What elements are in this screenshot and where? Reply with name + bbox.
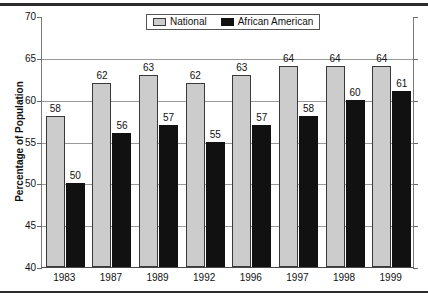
y-tick-mark-right-70 [413, 17, 418, 18]
plot-area: 58506256635762556357645864606461 [41, 17, 414, 268]
y-tick-mark-right-50 [413, 184, 418, 185]
y-tick-label-70: 70 [12, 12, 36, 22]
gridline-65 [42, 59, 413, 60]
legend-item-national: National [153, 17, 207, 27]
bar-value-label-african-american-1997: 58 [295, 104, 322, 114]
black-swatch-icon [221, 18, 234, 26]
y-tick-mark-right-45 [413, 226, 418, 227]
y-tick-label-50: 50 [12, 179, 36, 189]
y-tick-mark-right-40 [413, 268, 418, 269]
bar-national-1992 [186, 83, 205, 267]
bar-value-label-national-1998: 64 [322, 54, 349, 64]
bar-value-label-african-american-1987: 56 [108, 121, 135, 131]
bar-african-american-1999 [392, 91, 411, 267]
bar-african-american-1989 [159, 125, 178, 267]
x-tick-label-1999: 1999 [367, 272, 414, 283]
bar-national-1996 [232, 75, 251, 267]
x-tick-label-1996: 1996 [228, 272, 275, 283]
y-tick-label-60: 60 [12, 96, 36, 106]
y-tick-label-40: 40 [12, 263, 36, 273]
bar-value-label-african-american-1999: 61 [388, 79, 415, 89]
bar-value-label-national-1999: 64 [368, 54, 395, 64]
bar-value-label-national-1989: 63 [135, 63, 162, 73]
y-tick-mark-left-40 [37, 268, 42, 269]
bar-african-american-1997 [299, 116, 318, 267]
x-tick-label-1998: 1998 [321, 272, 368, 283]
legend-item-african-american: African American [221, 17, 314, 27]
bar-national-1983 [46, 116, 65, 267]
bar-national-1999 [372, 66, 391, 267]
y-tick-mark-left-45 [37, 226, 42, 227]
bar-national-1989 [139, 75, 158, 267]
bar-value-label-african-american-1998: 60 [342, 88, 369, 98]
y-tick-mark-right-65 [413, 59, 418, 60]
y-tick-mark-left-65 [37, 59, 42, 60]
bar-value-label-african-american-1983: 50 [62, 171, 89, 181]
x-tick-label-1983: 1983 [41, 272, 88, 283]
bar-african-american-1998 [346, 100, 365, 267]
y-tick-label-45: 45 [12, 221, 36, 231]
top-horizontal-rule [0, 3, 428, 6]
y-tick-mark-right-60 [413, 101, 418, 102]
x-tick-label-1992: 1992 [181, 272, 228, 283]
bar-african-american-1987 [112, 133, 131, 267]
y-tick-mark-left-50 [37, 184, 42, 185]
y-tick-mark-left-70 [37, 17, 42, 18]
y-tick-mark-left-55 [37, 143, 42, 144]
bottom-horizontal-rule [0, 291, 428, 293]
bar-african-american-1992 [206, 142, 225, 268]
y-tick-label-55: 55 [12, 138, 36, 148]
gray-swatch-icon [153, 18, 166, 26]
x-tick-label-1997: 1997 [274, 272, 321, 283]
bar-national-1987 [92, 83, 111, 267]
chart-legend: National African American [146, 14, 320, 30]
x-tick-label-1989: 1989 [134, 272, 181, 283]
bar-national-1997 [279, 66, 298, 267]
legend-label-african-american: African American [238, 17, 314, 27]
y-tick-label-65: 65 [12, 54, 36, 64]
bar-value-label-african-american-1992: 55 [202, 130, 229, 140]
y-tick-mark-right-55 [413, 143, 418, 144]
bar-value-label-national-1996: 63 [228, 63, 255, 73]
bar-value-label-national-1987: 62 [88, 71, 115, 81]
bar-african-american-1996 [252, 125, 271, 267]
bar-value-label-national-1983: 58 [42, 104, 69, 114]
bar-value-label-national-1992: 62 [182, 71, 209, 81]
bar-african-american-1983 [66, 183, 85, 267]
x-tick-label-1987: 1987 [88, 272, 135, 283]
bar-value-label-african-american-1996: 57 [248, 113, 275, 123]
y-tick-mark-left-60 [37, 101, 42, 102]
legend-label-national: National [170, 17, 207, 27]
bar-value-label-national-1997: 64 [275, 54, 302, 64]
bar-value-label-african-american-1989: 57 [155, 113, 182, 123]
